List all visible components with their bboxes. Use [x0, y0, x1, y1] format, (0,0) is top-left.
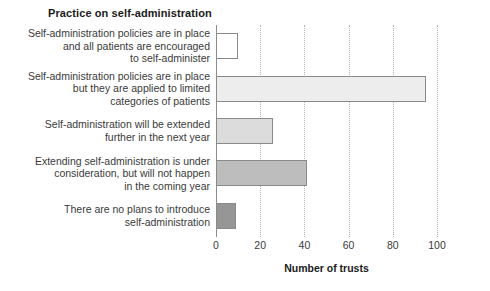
- category-label-line: but they are applied to limited: [0, 82, 210, 95]
- category-label-line: to self-administer: [0, 52, 210, 65]
- category-label-line: categories of patients: [0, 95, 210, 108]
- gridline-60: [349, 25, 350, 237]
- category-label-5: There are no plans to introduceself-admi…: [0, 203, 210, 228]
- category-label-line: consideration, but will not happen: [0, 167, 210, 180]
- category-label-line: Extending self-administration is under: [0, 155, 210, 168]
- category-label-line: further in the next year: [0, 131, 210, 144]
- x-tick-0: 0: [213, 239, 219, 251]
- category-label-line: self-administration: [0, 216, 210, 229]
- category-label-3: Self-administration will be extendedfurt…: [0, 118, 210, 143]
- x-tick-20: 20: [254, 239, 266, 251]
- category-label-line: and all patients are encouraged: [0, 40, 210, 53]
- gridline-40: [304, 25, 305, 237]
- bar-4: [216, 160, 307, 186]
- category-label-line: Self-administration policies are in plac…: [0, 70, 210, 83]
- category-label-1: Self-administration policies are in plac…: [0, 27, 210, 65]
- chart-title: Practice on self-administration: [48, 7, 212, 19]
- bar-chart-figure: Practice on self-administration Self-adm…: [0, 0, 490, 291]
- x-tick-80: 80: [387, 239, 399, 251]
- category-label-line: There are no plans to introduce: [0, 203, 210, 216]
- x-tick-100: 100: [428, 239, 446, 251]
- x-tick-60: 60: [343, 239, 355, 251]
- x-tick-40: 40: [299, 239, 311, 251]
- category-label-4: Extending self-administration is underco…: [0, 155, 210, 193]
- category-label-2: Self-administration policies are in plac…: [0, 70, 210, 108]
- gridline-100: [437, 25, 438, 237]
- category-labels: Self-administration policies are in plac…: [0, 25, 210, 237]
- x-axis-title: Number of trusts: [216, 262, 437, 274]
- plot-area: [216, 25, 437, 237]
- bar-3: [216, 118, 273, 144]
- x-axis-tick-labels: 020406080100: [216, 239, 437, 255]
- bar-1: [216, 33, 238, 59]
- bar-5: [216, 203, 236, 229]
- category-label-line: Self-administration will be extended: [0, 118, 210, 131]
- gridline-80: [393, 25, 394, 237]
- category-label-line: Self-administration policies are in plac…: [0, 27, 210, 40]
- category-label-line: in the coming year: [0, 180, 210, 193]
- bar-2: [216, 76, 426, 102]
